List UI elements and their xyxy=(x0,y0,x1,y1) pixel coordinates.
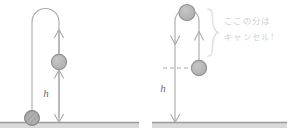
right-ball-release xyxy=(191,60,206,75)
right-cancel-annotation: ここの分は キャンセル！ xyxy=(224,16,280,42)
left-ball-midair xyxy=(51,54,66,69)
right-ground-band xyxy=(152,123,287,129)
left-arrow-lower-up xyxy=(55,70,64,118)
figure-canvas: h xyxy=(0,0,288,136)
right-height-label: h xyxy=(160,82,166,94)
right-panel: h ここの分は キャンセル！ xyxy=(152,5,287,129)
cancel-annotation-line2: キャンセル！ xyxy=(224,32,280,42)
left-ground-surface xyxy=(0,123,139,129)
right-ground-surface xyxy=(152,123,287,129)
left-height-label: h xyxy=(43,87,49,99)
left-panel: h xyxy=(0,9,139,129)
cancel-annotation-line1: ここの分は xyxy=(224,16,271,26)
physics-diagram-svg: h xyxy=(0,0,288,136)
right-ball-apex xyxy=(179,5,195,21)
left-ground-band xyxy=(0,123,139,129)
right-cancel-brace xyxy=(208,9,219,56)
